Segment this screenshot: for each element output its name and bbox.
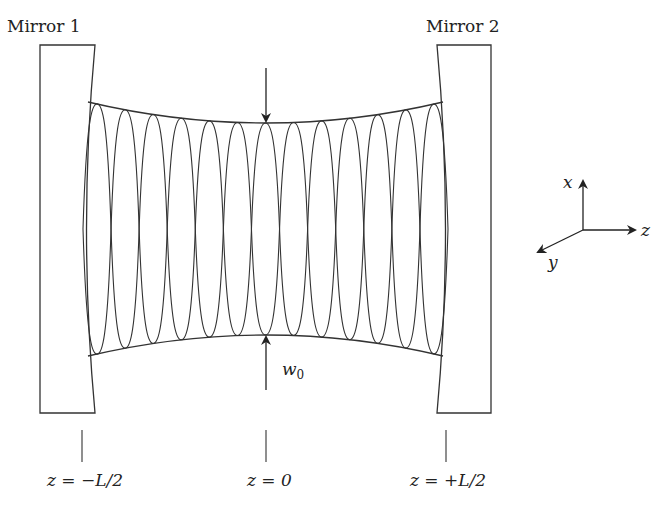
- beam-envelope: [88, 102, 443, 356]
- wave-lobe: [111, 229, 139, 348]
- wave-lobe: [223, 122, 251, 229]
- position-label-center: z = 0: [246, 470, 292, 490]
- wave-lobe: [111, 110, 139, 229]
- wave-lobe: [251, 229, 279, 335]
- wave-lobe: [139, 114, 167, 229]
- wave-lobe: [308, 121, 336, 229]
- wave-lobe: [336, 118, 364, 229]
- wave-lobe: [280, 229, 308, 336]
- wave-lobe: [420, 229, 448, 354]
- wave-lobe: [195, 229, 223, 337]
- wave-lobe: [139, 229, 167, 344]
- wave-lobe: [336, 229, 364, 340]
- mirror-1-label: Mirror 1: [7, 16, 81, 36]
- wave-lobe: [364, 115, 392, 229]
- diagram-svg: Mirror 1 Mirror 2 w0 z = −L/2 z = 0 z = …: [0, 0, 671, 512]
- coordinate-axes-icon: [538, 181, 635, 252]
- axis-label-y: y: [547, 252, 558, 272]
- wave-lobe: [167, 118, 195, 229]
- standing-wave-pattern: [83, 104, 448, 354]
- wave-lobe: [280, 122, 308, 229]
- wave-lobe: [251, 123, 279, 229]
- position-label-mirror-2: z = +L/2: [409, 470, 486, 490]
- wave-lobe: [167, 229, 195, 340]
- position-label-mirror-1: z = −L/2: [46, 470, 123, 490]
- mirror-2: [437, 45, 491, 413]
- wave-lobe: [392, 110, 420, 229]
- axis-label-z: z: [640, 220, 651, 240]
- mirror-1: [40, 45, 95, 413]
- axis-label-x: x: [563, 172, 573, 192]
- waist-label: w0: [282, 359, 304, 382]
- wave-lobe: [392, 229, 420, 348]
- cavity-diagram: Mirror 1 Mirror 2 w0 z = −L/2 z = 0 z = …: [0, 0, 671, 512]
- wave-lobe: [364, 229, 392, 343]
- wave-lobe: [223, 229, 251, 336]
- mirror-2-label: Mirror 2: [426, 16, 500, 36]
- wave-lobe: [195, 121, 223, 229]
- wave-lobe: [420, 104, 448, 229]
- wave-lobe: [308, 229, 336, 337]
